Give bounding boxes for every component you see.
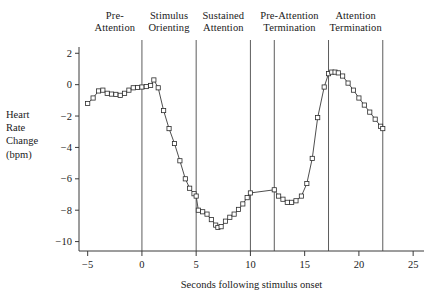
data-point-marker	[188, 186, 192, 190]
data-point-marker	[219, 225, 223, 229]
data-point-marker	[245, 196, 249, 200]
x-tick-label: −5	[82, 259, 93, 270]
y-tick-label: −8	[61, 205, 72, 216]
data-point-marker	[305, 181, 309, 185]
y-tick-label: 2	[67, 48, 72, 59]
x-tick-label: 0	[139, 259, 144, 270]
data-point-marker	[310, 156, 314, 160]
data-point-marker	[209, 218, 213, 222]
data-point-marker	[362, 103, 366, 107]
data-point-marker	[223, 219, 227, 223]
x-tick-label: 5	[194, 259, 199, 270]
data-point-marker	[294, 199, 298, 203]
data-point-marker	[196, 208, 200, 212]
heart-rate-change-figure: Heart Rate Change (bpm) Pre- Attention S…	[0, 0, 436, 301]
data-point-marker	[101, 88, 105, 92]
data-point-markers	[86, 70, 385, 230]
data-point-marker	[122, 91, 126, 95]
data-line-heart-rate	[88, 72, 383, 227]
data-point-marker	[156, 86, 160, 90]
data-point-marker	[149, 83, 153, 87]
data-point-marker	[316, 116, 320, 120]
axis-lines	[79, 47, 424, 251]
data-point-marker	[373, 117, 377, 121]
data-point-marker	[144, 84, 148, 88]
data-point-marker	[201, 210, 205, 214]
x-axis-title: Seconds following stimulus onset	[181, 279, 323, 290]
data-point-marker	[381, 127, 385, 131]
y-tick-label: −2	[61, 111, 72, 122]
data-point-marker	[277, 194, 281, 198]
data-point-marker	[232, 212, 236, 216]
data-point-marker	[167, 127, 171, 131]
data-point-marker	[131, 86, 135, 90]
data-point-marker	[241, 202, 245, 206]
data-point-marker	[248, 191, 252, 195]
data-point-marker	[96, 89, 100, 93]
x-tick-label: 15	[299, 259, 310, 270]
data-point-marker	[91, 96, 95, 100]
data-point-marker	[86, 101, 90, 105]
data-point-marker	[357, 96, 361, 100]
data-point-marker	[109, 92, 113, 96]
data-point-marker	[290, 200, 294, 204]
data-point-marker	[281, 197, 285, 201]
data-point-marker	[228, 215, 232, 219]
data-point-marker	[351, 88, 355, 92]
data-point-marker	[285, 200, 289, 204]
data-point-marker	[118, 93, 122, 97]
data-point-marker	[272, 188, 276, 192]
plot-area: −50510152025 20−2−4−6−8−10 Seconds follo…	[0, 0, 436, 301]
data-point-marker	[336, 71, 340, 75]
data-point-marker	[205, 212, 209, 216]
y-tick-label: −10	[56, 236, 72, 247]
data-point-marker	[127, 88, 131, 92]
data-point-marker	[162, 108, 166, 112]
phase-divider-lines	[142, 40, 383, 251]
x-tick-label: 25	[408, 259, 419, 270]
data-point-marker	[152, 78, 156, 82]
y-tick-label: −6	[61, 173, 72, 184]
data-point-marker	[368, 110, 372, 114]
data-point-marker	[172, 141, 176, 145]
data-point-marker	[346, 81, 350, 85]
data-point-marker	[140, 85, 144, 89]
data-point-marker	[194, 194, 198, 198]
x-tick-label: 20	[354, 259, 365, 270]
data-point-marker	[114, 92, 118, 96]
y-tick-label: 0	[67, 79, 72, 90]
data-point-marker	[178, 159, 182, 163]
data-point-marker	[105, 91, 109, 95]
data-point-marker	[322, 85, 326, 89]
data-point-marker	[236, 207, 240, 211]
y-axis-ticks: 20−2−4−6−8−10	[56, 48, 79, 247]
data-point-marker	[299, 194, 303, 198]
data-point-marker	[183, 177, 187, 181]
x-axis-ticks: −50510152025	[82, 251, 418, 270]
data-point-marker	[135, 85, 139, 89]
x-tick-label: 10	[245, 259, 256, 270]
data-point-marker	[341, 74, 345, 78]
y-tick-label: −4	[61, 142, 73, 153]
